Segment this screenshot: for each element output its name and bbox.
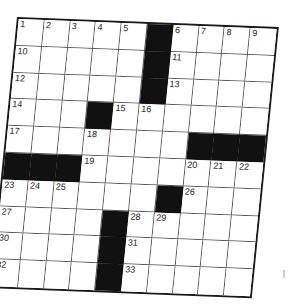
black-square (140, 77, 168, 105)
grid-cell[interactable] (34, 100, 62, 128)
grid-cell[interactable]: 21 (209, 161, 237, 189)
grid-cell[interactable] (72, 236, 100, 264)
black-square (95, 263, 123, 291)
grid-cell[interactable] (103, 183, 131, 211)
grid-cell[interactable] (69, 262, 97, 290)
grid-cell[interactable]: 9 (248, 28, 276, 56)
clue-number: 22 (238, 163, 249, 172)
grid-cell[interactable]: 14 (8, 99, 36, 127)
grid-cell[interactable] (163, 105, 191, 133)
grid-cell[interactable] (46, 235, 74, 263)
grid-cell[interactable]: 30 (0, 233, 23, 261)
grid-cell[interactable]: 1 (16, 19, 44, 47)
grid-cell[interactable]: 10 (13, 46, 41, 74)
grid-cell[interactable] (189, 106, 217, 134)
grid-cell[interactable] (201, 241, 229, 269)
grid-cell[interactable]: 2 (42, 20, 70, 48)
grid-cell[interactable] (49, 208, 77, 236)
grid-cell[interactable] (173, 266, 201, 294)
grid-cell[interactable] (224, 268, 252, 296)
grid-cell[interactable]: 33 (121, 264, 149, 292)
grid-cell[interactable] (157, 159, 185, 187)
grid-cell[interactable] (77, 182, 105, 210)
clue-number: 15 (115, 104, 126, 113)
grid-cell[interactable]: 6 (171, 25, 199, 53)
grid-cell[interactable] (232, 188, 260, 216)
black-square (212, 134, 240, 162)
grid-cell[interactable] (227, 242, 255, 270)
grid-cell[interactable] (160, 132, 188, 160)
grid-cell[interactable]: 26 (181, 186, 209, 214)
grid-cell[interactable] (44, 261, 72, 289)
grid-cell[interactable] (39, 47, 67, 75)
grid-cell[interactable] (114, 76, 142, 104)
grid-cell[interactable] (129, 184, 157, 212)
grid-cell[interactable] (21, 234, 49, 262)
clue-number: 29 (156, 213, 167, 222)
grid-cell[interactable]: 18 (83, 129, 111, 157)
grid-cell[interactable] (175, 240, 203, 268)
grid-cell[interactable]: 29 (152, 212, 180, 240)
grid-cell[interactable] (220, 54, 248, 82)
grid-cell[interactable] (240, 108, 268, 136)
grid-cell[interactable] (60, 101, 88, 129)
grid-cell[interactable]: 13 (165, 78, 193, 106)
page-edge-mark (283, 270, 285, 278)
grid-cell[interactable] (149, 239, 177, 267)
grid-cell[interactable] (62, 74, 90, 102)
grid-cell[interactable] (88, 75, 116, 103)
grid-cell[interactable] (18, 260, 46, 288)
grid-cell[interactable]: 25 (52, 181, 80, 209)
grid-cell[interactable]: 24 (26, 180, 54, 208)
clue-number: 19 (84, 157, 95, 166)
clue-number: 1 (20, 20, 26, 29)
grid-cell[interactable] (245, 55, 273, 83)
grid-cell[interactable]: 23 (0, 179, 28, 207)
grid-cell[interactable] (65, 48, 93, 76)
grid-cell[interactable]: 17 (5, 126, 33, 154)
grid-cell[interactable] (134, 131, 162, 159)
grid-cell[interactable] (37, 73, 65, 101)
grid-cell[interactable] (106, 157, 134, 185)
grid-cell[interactable] (204, 214, 232, 242)
grid-cell[interactable]: 19 (80, 156, 108, 184)
grid-cell[interactable] (206, 187, 234, 215)
grid-cell[interactable] (91, 49, 119, 77)
grid-cell[interactable]: 27 (0, 206, 26, 234)
grid-cell[interactable] (109, 130, 137, 158)
clue-number: 30 (0, 234, 9, 243)
grid-cell[interactable]: 4 (93, 22, 121, 50)
grid-cell[interactable] (214, 107, 242, 135)
grid-cell[interactable]: 3 (68, 21, 96, 49)
grid-cell[interactable] (217, 80, 245, 108)
grid-cell[interactable]: 31 (124, 238, 152, 266)
grid-cell[interactable]: 28 (126, 211, 154, 239)
grid-cell[interactable] (147, 265, 175, 293)
grid-cell[interactable] (23, 207, 51, 235)
clue-number: 10 (17, 47, 28, 56)
grid-cell[interactable]: 15 (111, 103, 139, 131)
grid-cell[interactable]: 11 (168, 52, 196, 80)
black-square (3, 153, 31, 181)
clue-number: 17 (9, 127, 20, 136)
grid-cell[interactable] (229, 215, 257, 243)
grid-cell[interactable] (117, 50, 145, 78)
grid-cell[interactable]: 16 (137, 104, 165, 132)
grid-cell[interactable] (31, 127, 59, 155)
grid-cell[interactable] (243, 81, 271, 109)
grid-cell[interactable] (75, 209, 103, 237)
grid-cell[interactable]: 12 (11, 72, 39, 100)
grid-cell[interactable] (194, 53, 222, 81)
clue-number: 28 (130, 212, 141, 221)
grid-cell[interactable] (198, 267, 226, 295)
grid-cell[interactable]: 7 (197, 26, 225, 54)
grid-cell[interactable] (191, 79, 219, 107)
grid-cell[interactable] (132, 158, 160, 186)
grid-cell[interactable]: 5 (119, 23, 147, 51)
grid-cell[interactable]: 8 (222, 27, 250, 55)
grid-cell[interactable]: 20 (183, 160, 211, 188)
grid-cell[interactable] (178, 213, 206, 241)
clue-number: 24 (30, 181, 41, 190)
grid-cell[interactable]: 22 (235, 162, 263, 190)
grid-cell[interactable] (57, 128, 85, 156)
